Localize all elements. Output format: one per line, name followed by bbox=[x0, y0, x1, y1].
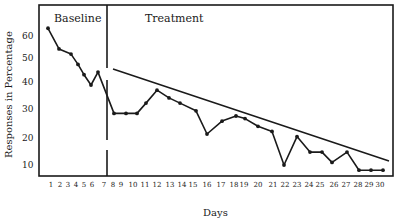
x-tick-label: 7 bbox=[102, 181, 106, 189]
data-point bbox=[205, 132, 209, 136]
data-point bbox=[357, 168, 361, 172]
x-tick-label: 10 bbox=[129, 181, 138, 189]
data-point bbox=[282, 163, 286, 167]
x-tick-label: 1 bbox=[49, 181, 53, 189]
data-series bbox=[46, 26, 385, 172]
y-tick-label: 20 bbox=[22, 133, 34, 143]
x-tick-label: 6 bbox=[90, 181, 95, 189]
data-point bbox=[270, 130, 274, 134]
y-tick-label: 30 bbox=[22, 104, 34, 114]
x-tick-label: 15 bbox=[189, 181, 198, 189]
x-tick-label: 25 bbox=[316, 181, 325, 189]
x-tick-label: 26 bbox=[330, 181, 339, 189]
x-tick-label: 19 bbox=[240, 181, 249, 189]
x-tick-label: 3 bbox=[66, 181, 70, 189]
data-point bbox=[144, 101, 148, 105]
data-point bbox=[135, 112, 139, 116]
x-tick-label: 5 bbox=[82, 181, 86, 189]
x-tick-label: 12 bbox=[153, 181, 162, 189]
data-point bbox=[243, 117, 247, 121]
data-point bbox=[345, 150, 349, 154]
data-point bbox=[96, 70, 100, 74]
x-tick-label: 13 bbox=[166, 181, 175, 189]
data-point bbox=[46, 26, 50, 30]
data-point bbox=[112, 112, 116, 116]
phase-label-baseline: Baseline bbox=[54, 12, 101, 25]
trend-line bbox=[113, 69, 389, 161]
data-point bbox=[295, 135, 299, 139]
y-tick-label: 60 bbox=[22, 31, 34, 41]
data-line bbox=[48, 28, 383, 170]
data-point bbox=[124, 112, 128, 116]
data-point bbox=[57, 47, 61, 51]
data-point bbox=[194, 109, 198, 113]
x-tick-label: 24 bbox=[305, 181, 314, 189]
x-tick-label: 17 bbox=[217, 181, 226, 189]
plot-frame bbox=[39, 5, 393, 176]
y-tick-label: 10 bbox=[22, 160, 34, 170]
data-point bbox=[167, 96, 171, 100]
x-tick-label: 29 bbox=[365, 181, 374, 189]
phase-label-treatment: Treatment bbox=[145, 12, 204, 25]
y-axis-ticks: 102030405060 bbox=[22, 31, 34, 170]
data-point bbox=[69, 52, 73, 56]
x-tick-label: 11 bbox=[141, 181, 150, 189]
x-tick-label: 14 bbox=[178, 181, 187, 189]
data-point bbox=[381, 168, 385, 172]
x-tick-label: 8 bbox=[111, 181, 115, 189]
x-axis-ticks: 1234567891011121314151617181920212223242… bbox=[49, 181, 385, 189]
x-tick-label: 16 bbox=[203, 181, 212, 189]
single-case-line-chart: 102030405060 123456789101112131415161718… bbox=[0, 0, 395, 221]
y-tick-label: 40 bbox=[22, 77, 34, 87]
x-axis-title: Days bbox=[203, 207, 228, 218]
x-tick-label: 30 bbox=[376, 181, 385, 189]
x-tick-label: 9 bbox=[119, 181, 123, 189]
y-tick-label: 50 bbox=[22, 53, 34, 63]
data-point bbox=[76, 62, 80, 66]
data-point bbox=[234, 114, 238, 118]
data-point bbox=[89, 83, 93, 87]
x-tick-label: 4 bbox=[74, 181, 79, 189]
trend-line-segment bbox=[113, 69, 389, 161]
data-point bbox=[256, 124, 260, 128]
data-point bbox=[155, 88, 159, 92]
data-point bbox=[308, 150, 312, 154]
data-point bbox=[369, 168, 373, 172]
x-tick-label: 22 bbox=[281, 181, 290, 189]
x-tick-label: 2 bbox=[58, 181, 62, 189]
data-point bbox=[178, 101, 182, 105]
data-point bbox=[330, 161, 334, 165]
x-tick-label: 20 bbox=[254, 181, 263, 189]
x-tick-label: 27 bbox=[342, 181, 351, 189]
x-tick-label: 21 bbox=[269, 181, 278, 189]
data-point bbox=[220, 119, 224, 123]
x-tick-label: 28 bbox=[354, 181, 363, 189]
data-point bbox=[320, 150, 324, 154]
x-tick-label: 18 bbox=[230, 181, 239, 189]
x-tick-label: 23 bbox=[293, 181, 302, 189]
y-axis-title: Responses in Percentage bbox=[3, 31, 14, 158]
data-point bbox=[82, 73, 86, 77]
